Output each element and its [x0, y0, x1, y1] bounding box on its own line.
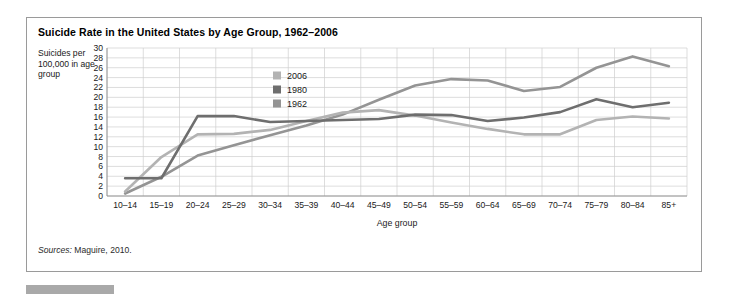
y-axis-tick-label: 0: [98, 191, 103, 201]
x-axis-tick-label: 40–44: [331, 200, 355, 210]
sources-note: Sources: Maguire, 2010.: [38, 245, 132, 255]
y-axis-tick-label: 20: [93, 92, 103, 102]
x-axis-tick-label: 35–39: [294, 200, 318, 210]
x-axis-tick-label: 80–84: [621, 200, 645, 210]
y-axis-tick-label: 28: [93, 53, 103, 63]
x-axis-tick-label: 70–74: [548, 200, 572, 210]
x-axis-title: Age group: [377, 218, 418, 228]
y-axis-tick-label: 2: [98, 181, 103, 191]
x-axis-tick-label: 10–14: [113, 200, 137, 210]
sources-label: Sources:: [38, 245, 72, 255]
y-axis-tick-label: 14: [93, 122, 103, 132]
y-axis-tick-label: 12: [93, 132, 103, 142]
y-axis-tick-label: 10: [93, 142, 103, 152]
page-footer-bar: [26, 285, 114, 294]
sources-text: Maguire, 2010.: [72, 245, 132, 255]
x-axis-tick-label: 20–24: [186, 200, 210, 210]
legend-label-2006: 2006: [287, 71, 307, 81]
legend-swatch-1980: [273, 86, 281, 94]
x-axis-tick-label: 85+: [662, 200, 677, 210]
y-axis-tick-label: 26: [93, 63, 103, 73]
x-axis-tick-label: 65–69: [512, 200, 536, 210]
y-axis-tick-label: 30: [93, 43, 103, 53]
legend-label-1962: 1962: [287, 99, 307, 109]
screenshot-root: Suicide Rate in the United States by Age…: [0, 0, 729, 297]
y-axis-tick-label: 8: [98, 152, 103, 162]
figure-title: Suicide Rate in the United States by Age…: [38, 26, 338, 38]
x-axis-tick-label: 60–64: [476, 200, 500, 210]
x-axis-tick-label: 15–19: [149, 200, 173, 210]
chart-legend: 200619801962: [273, 71, 307, 109]
y-axis-caption: Suicides per 100,000 in age group: [38, 48, 96, 80]
x-axis-tick-label: 55–59: [439, 200, 463, 210]
x-axis-tick-label: 45–49: [367, 200, 391, 210]
y-axis-tick-label: 24: [93, 73, 103, 83]
x-axis-tick-label: 75–79: [584, 200, 608, 210]
legend-swatch-2006: [273, 72, 281, 80]
y-axis-tick-label: 6: [98, 161, 103, 171]
figure-container: Suicide Rate in the United States by Age…: [26, 17, 702, 272]
line-chart: 02468101214161820222426283010–1415–1920–…: [89, 46, 689, 236]
x-axis-tick-label: 30–34: [258, 200, 282, 210]
x-axis-tick-label: 25–29: [222, 200, 246, 210]
legend-swatch-1962: [273, 100, 281, 108]
y-axis-tick-label: 4: [98, 171, 103, 181]
x-axis-tick-label: 50–54: [403, 200, 427, 210]
y-axis-tick-label: 22: [93, 82, 103, 92]
y-axis-tick-label: 16: [93, 112, 103, 122]
chart-plot-area: 02468101214161820222426283010–1415–1920–…: [89, 46, 689, 236]
legend-label-1980: 1980: [287, 85, 307, 95]
y-axis-tick-label: 18: [93, 102, 103, 112]
